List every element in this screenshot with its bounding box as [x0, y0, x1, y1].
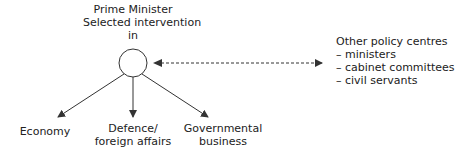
target-defence: Defence/ foreign affairs [93, 122, 173, 148]
other-centres-item: – civil servants [336, 74, 455, 87]
target-label: business [183, 135, 263, 148]
center-title-line1: Prime Minister [83, 3, 183, 16]
arrow-to-economy [58, 74, 124, 117]
target-economy: Economy [10, 125, 80, 138]
target-label: Economy [10, 125, 80, 138]
other-policy-centres: Other policy centres – ministers – cabin… [336, 35, 455, 87]
other-centres-item: – cabinet committees [336, 61, 455, 74]
center-title: Prime Minister Selected intervention in [83, 3, 183, 42]
other-centres-item: – ministers [336, 48, 455, 61]
arrow-to-governmental [142, 74, 208, 117]
other-centres-heading: Other policy centres [336, 35, 455, 48]
center-title-line2: Selected intervention [83, 16, 183, 29]
target-label: Governmental [183, 122, 263, 135]
arrowhead-left-icon [153, 59, 162, 67]
target-label: Defence/ [93, 122, 173, 135]
center-title-line3: in [83, 29, 183, 42]
prime-minister-node [119, 49, 147, 77]
target-governmental: Governmental business [183, 122, 263, 148]
target-label: foreign affairs [93, 135, 173, 148]
